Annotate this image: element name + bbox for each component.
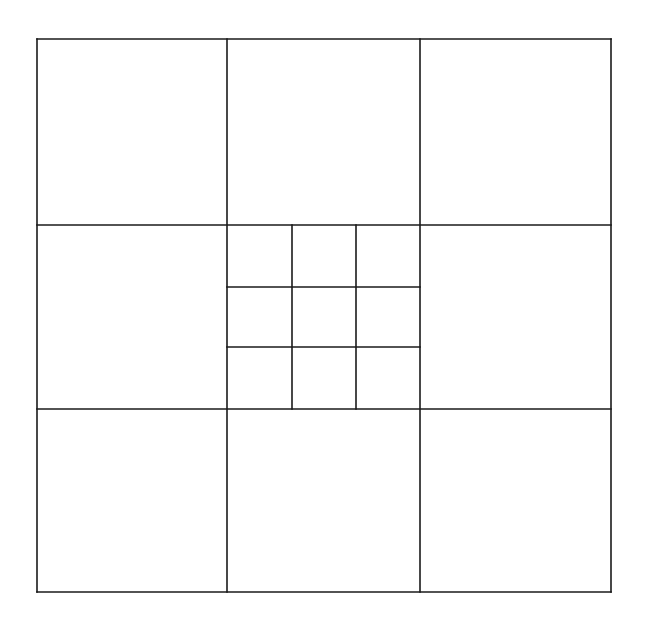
grid-lines bbox=[37, 39, 611, 592]
grid-diagram bbox=[0, 0, 647, 636]
